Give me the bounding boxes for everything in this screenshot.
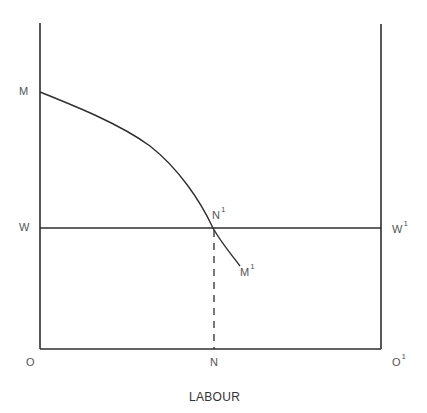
label-O: O [26,357,35,368]
label-N: N [210,357,218,368]
mrp-curve [40,92,240,266]
label-W-prime: W1 [392,222,408,235]
label-M-prime: M1 [240,265,255,278]
axis-title-labour: LABOUR [189,390,240,404]
label-N-prime: N1 [212,208,225,221]
label-M: M [19,86,28,97]
label-W: W [19,222,29,233]
labour-diagram-canvas [0,0,427,413]
label-O-prime: O1 [392,355,406,368]
